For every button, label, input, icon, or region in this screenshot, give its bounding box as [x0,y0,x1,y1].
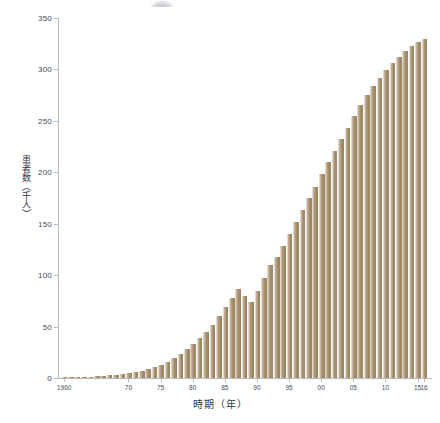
bar [248,302,254,378]
y-tick-label: 50 [43,322,52,331]
bar [216,316,222,378]
x-tick-mark [424,378,425,382]
x-tick-mark [321,378,322,382]
x-tick-label: 80 [189,384,196,391]
bar [325,162,331,378]
x-tick-label: 70 [125,384,132,391]
bar [197,338,203,378]
x-tick-label: 1960 [57,384,71,391]
y-tick-mark [54,327,58,328]
bar [120,374,126,378]
x-tick-mark [289,378,290,382]
x-tick-label: 75 [157,384,164,391]
bar [274,257,280,378]
bar [370,86,376,378]
bar [178,354,184,378]
bar [100,376,106,378]
y-tick-mark [54,275,58,276]
x-tick-mark [385,378,386,382]
y-tick-mark [54,172,58,173]
bar [113,375,119,378]
bar [390,63,396,378]
bar [293,222,299,378]
y-tick-mark [54,378,58,379]
bar [351,116,357,378]
bar [377,78,383,378]
bar [184,349,190,378]
bar [332,151,338,378]
bar [345,128,351,378]
y-tick-mark [54,18,58,19]
bar [81,377,87,378]
y-tick-label: 300 [38,65,52,74]
bar [357,105,363,378]
x-tick-mark [225,378,226,382]
y-tick-mark [54,69,58,70]
x-tick-label: 85 [221,384,228,391]
bar [338,139,344,378]
bar [267,265,273,378]
bar-chart: 患者数（千人） 050100150200250300350 1960707580… [0,0,440,423]
bar [165,362,171,378]
y-tick-label: 100 [38,271,52,280]
x-tick-mark [257,378,258,382]
bar [306,198,312,378]
bar [62,377,68,378]
bar [261,278,267,378]
x-tick-label: 16 [420,384,427,391]
x-tick-label: 05 [350,384,357,391]
bar [229,298,235,378]
x-tick-label: 00 [318,384,325,391]
bar [88,377,94,378]
bar [94,376,100,378]
bar [133,372,139,378]
y-tick-label: 200 [38,168,52,177]
bar [68,377,74,378]
bar [203,332,209,378]
x-tick-mark [128,378,129,382]
bar [255,291,261,378]
bar [235,289,241,378]
bar [383,70,389,378]
y-tick-label: 150 [38,219,52,228]
y-axis-line [58,18,59,378]
x-tick-label: 95 [285,384,292,391]
bar [139,371,145,378]
bar [422,39,428,378]
bar [287,234,293,378]
x-tick-mark [418,378,419,382]
bar [319,174,325,378]
bar [364,95,370,378]
bar [396,57,402,378]
bar [152,367,158,378]
x-axis-line [58,378,432,379]
x-tick-mark [193,378,194,382]
x-tick-label: 10 [382,384,389,391]
y-tick-label: 350 [38,14,52,23]
bar [223,307,229,378]
x-axis-title: 時期（年） [0,396,440,411]
bar [126,373,132,378]
x-tick-mark [161,378,162,382]
bar [402,51,408,378]
y-tick-mark [54,121,58,122]
bar [210,325,216,378]
y-tick-mark [54,224,58,225]
bar [280,246,286,378]
bar [242,296,248,378]
plot-area: 050100150200250300350 196070758085909500… [58,18,432,378]
x-tick-mark [353,378,354,382]
x-tick-label: 90 [253,384,260,391]
y-axis-title: 患者数（千人） [14,155,30,218]
y-tick-label: 250 [38,116,52,125]
bar [75,377,81,378]
x-tick-mark [64,378,65,382]
cropped-top-artifact [150,0,174,7]
bar [409,46,415,378]
bar [145,369,151,378]
bar [190,344,196,378]
bar [158,365,164,378]
bar [415,42,421,378]
bar [300,210,306,378]
bar [312,187,318,378]
